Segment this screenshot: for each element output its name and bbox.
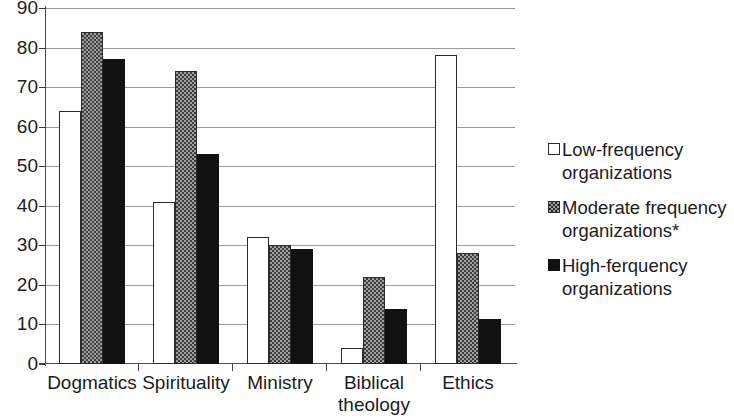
- bar-low[interactable]: [59, 111, 81, 364]
- bar-high[interactable]: [291, 249, 313, 364]
- bar-high[interactable]: [103, 59, 125, 364]
- y-axis-tick-label: 10: [0, 314, 38, 333]
- legend-label: Moderate frequency organizations*: [562, 196, 734, 242]
- x-axis-category-label: Ethics: [421, 372, 515, 418]
- x-axis-category-label: Spirituality: [139, 372, 233, 418]
- bar-high[interactable]: [479, 319, 501, 364]
- x-axis-category-label: Dogmatics: [45, 372, 139, 418]
- category-label-line: Spirituality: [139, 372, 233, 394]
- bar-low[interactable]: [153, 202, 175, 364]
- y-axis-tick-label: 40: [0, 196, 38, 215]
- legend-label: High-ferquency organizations: [562, 254, 734, 300]
- checkered-square-icon: [548, 201, 560, 213]
- x-axis-category-label: Biblicaltheology: [327, 372, 421, 418]
- y-axis-tick-label: 30: [0, 235, 38, 254]
- x-axis-group-separator: [326, 363, 327, 371]
- bar-group: [327, 8, 421, 364]
- x-axis-group-separator: [138, 363, 139, 371]
- y-axis-tick: [39, 364, 46, 365]
- black-square-icon: [548, 259, 560, 271]
- y-axis-tick-label: 20: [0, 275, 38, 294]
- bar-group: [233, 8, 327, 364]
- y-axis: 9080706050403020100: [0, 0, 38, 418]
- bar-moderate[interactable]: [175, 71, 197, 364]
- category-label-line: Ministry: [233, 372, 327, 394]
- legend-item[interactable]: Low-frequency organizations: [548, 138, 734, 184]
- bar-groups: [45, 8, 515, 364]
- y-axis-tick-label: 60: [0, 117, 38, 136]
- bar-low[interactable]: [247, 237, 269, 364]
- category-label-line: Dogmatics: [45, 372, 139, 394]
- bar-chart: 9080706050403020100 DogmaticsSpiritualit…: [0, 0, 734, 418]
- bar-low[interactable]: [341, 348, 363, 364]
- chart-legend: Low-frequency organizationsModerate freq…: [548, 138, 734, 312]
- legend-item[interactable]: Moderate frequency organizations*: [548, 196, 734, 242]
- plot-area: [45, 8, 515, 364]
- y-axis-tick-label: 80: [0, 38, 38, 57]
- bar-moderate[interactable]: [457, 253, 479, 364]
- y-axis-tick-label: 90: [0, 0, 38, 17]
- category-label-line: Ethics: [421, 372, 515, 394]
- x-axis-category-label: Ministry: [233, 372, 327, 418]
- x-axis-group-separator: [232, 363, 233, 371]
- x-axis-group-separator: [420, 363, 421, 371]
- category-label-line: Biblical: [327, 372, 421, 394]
- bar-high[interactable]: [197, 154, 219, 364]
- legend-item[interactable]: High-ferquency organizations: [548, 254, 734, 300]
- bar-moderate[interactable]: [269, 245, 291, 364]
- bar-group: [45, 8, 139, 364]
- bar-moderate[interactable]: [81, 32, 103, 364]
- bar-group: [139, 8, 233, 364]
- bar-group: [421, 8, 515, 364]
- bar-low[interactable]: [435, 55, 457, 364]
- y-axis-tick-label: 70: [0, 77, 38, 96]
- white-square-icon: [548, 143, 560, 155]
- bar-moderate[interactable]: [363, 277, 385, 364]
- bar-high[interactable]: [385, 309, 407, 364]
- category-label-line: theology: [327, 394, 421, 416]
- y-axis-tick-label: 50: [0, 156, 38, 175]
- y-axis-tick-label: 0: [0, 354, 38, 373]
- x-axis-category-labels: DogmaticsSpiritualityMinistryBiblicalthe…: [45, 372, 515, 418]
- legend-label: Low-frequency organizations: [562, 138, 734, 184]
